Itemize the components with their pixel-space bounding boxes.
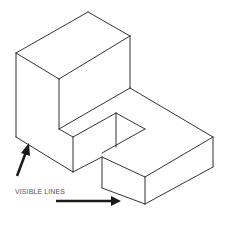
edge-line — [73, 157, 102, 172]
edge-line — [88, 12, 130, 36]
edge-line — [102, 157, 145, 177]
edge-line — [130, 88, 213, 137]
edge-line — [59, 36, 130, 79]
edge-line — [145, 137, 213, 177]
edge-line — [59, 88, 130, 129]
edge-line — [59, 129, 73, 137]
edge-line — [16, 12, 88, 53]
visible-edges — [16, 12, 213, 204]
edge-line — [145, 167, 213, 204]
arrow-upward-icon — [17, 143, 30, 176]
arrow-right-icon — [56, 196, 121, 206]
edge-line — [16, 53, 59, 79]
visible-lines-label: VISIBLE LINES — [15, 188, 65, 195]
edge-line — [102, 129, 145, 153]
edge-line — [116, 113, 145, 129]
edge-line — [73, 113, 116, 137]
